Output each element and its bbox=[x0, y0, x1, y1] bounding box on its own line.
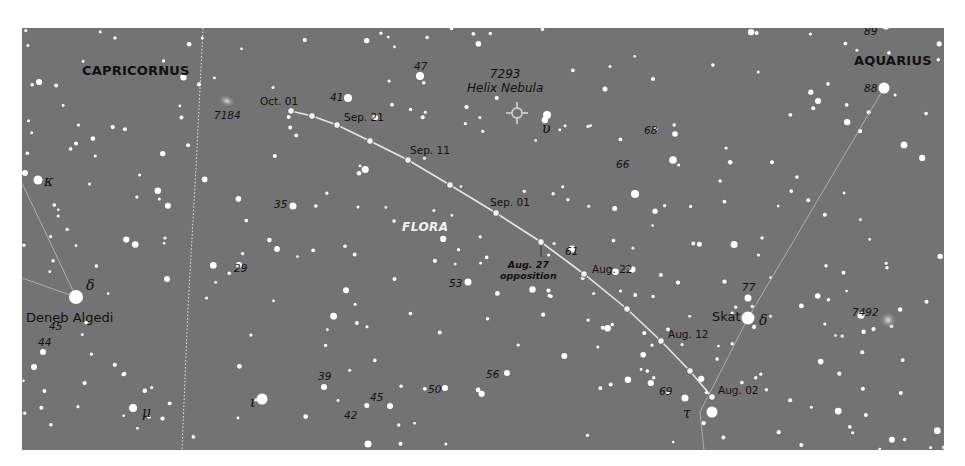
field-star bbox=[457, 248, 460, 251]
field-star bbox=[36, 79, 42, 85]
field-star bbox=[74, 141, 78, 145]
field-star bbox=[160, 417, 164, 421]
field-star bbox=[113, 36, 116, 39]
field-star bbox=[871, 327, 875, 331]
star-number-label: 88 bbox=[864, 83, 877, 94]
field-star bbox=[799, 304, 804, 309]
field-star bbox=[691, 242, 695, 246]
field-star bbox=[54, 83, 58, 87]
star-number-label: 39 bbox=[318, 371, 331, 382]
field-star bbox=[811, 106, 815, 110]
field-star bbox=[138, 174, 141, 177]
ngc-number-label: 7184 bbox=[214, 110, 241, 121]
greek-letter-label: ι bbox=[250, 395, 256, 409]
field-star bbox=[294, 134, 298, 138]
constellation-name-label: AQUARIUS bbox=[854, 54, 932, 67]
field-star bbox=[566, 198, 569, 201]
field-star bbox=[632, 247, 635, 250]
field-star bbox=[75, 244, 78, 247]
field-star bbox=[731, 241, 738, 248]
field-star bbox=[51, 259, 54, 262]
field-star bbox=[901, 142, 908, 149]
field-star bbox=[425, 36, 429, 40]
field-star bbox=[267, 238, 272, 243]
field-star bbox=[186, 143, 190, 147]
field-star bbox=[180, 116, 184, 120]
field-star bbox=[603, 86, 608, 91]
field-star bbox=[815, 293, 821, 299]
field-star bbox=[529, 286, 535, 292]
greek-letter-label: κ bbox=[44, 174, 53, 188]
field-star bbox=[168, 401, 172, 405]
field-star bbox=[609, 383, 613, 387]
star-number-label: 53 bbox=[449, 278, 462, 289]
bright-star bbox=[442, 385, 448, 391]
field-star bbox=[596, 345, 599, 348]
field-star bbox=[113, 363, 117, 367]
field-star bbox=[934, 427, 941, 434]
field-star bbox=[919, 155, 925, 161]
field-star bbox=[731, 342, 734, 345]
field-star bbox=[99, 31, 102, 34]
field-star bbox=[789, 113, 793, 117]
field-star bbox=[249, 334, 252, 337]
field-star bbox=[460, 185, 463, 188]
field-star bbox=[495, 96, 499, 100]
field-star bbox=[237, 364, 242, 369]
bright-star bbox=[321, 384, 327, 390]
ngc-number-label: 7492 bbox=[852, 307, 879, 318]
field-star bbox=[604, 325, 611, 332]
field-star bbox=[702, 421, 706, 425]
field-star bbox=[53, 203, 57, 207]
field-star bbox=[619, 138, 623, 142]
field-star bbox=[653, 209, 658, 214]
field-star bbox=[601, 326, 605, 330]
field-star bbox=[868, 238, 871, 241]
field-star bbox=[486, 317, 489, 320]
field-star bbox=[155, 188, 161, 194]
field-star bbox=[311, 248, 315, 252]
star-number-label: 56 bbox=[486, 369, 499, 380]
field-star bbox=[611, 323, 614, 326]
field-star bbox=[464, 122, 467, 125]
field-star bbox=[564, 124, 567, 127]
field-star bbox=[752, 325, 756, 329]
field-star bbox=[187, 42, 192, 47]
field-star bbox=[326, 328, 329, 331]
bright-star bbox=[669, 156, 677, 164]
field-star bbox=[132, 241, 139, 248]
field-star bbox=[885, 266, 888, 269]
asteroid-name-label: FLORA bbox=[402, 221, 449, 233]
field-star bbox=[810, 406, 813, 409]
greek-letter-label: δ bbox=[759, 313, 767, 327]
greek-letter-label: τ bbox=[683, 406, 691, 420]
field-star bbox=[464, 105, 468, 109]
field-star bbox=[366, 325, 369, 328]
field-star bbox=[143, 388, 148, 393]
field-star bbox=[164, 276, 170, 282]
field-star bbox=[337, 399, 340, 402]
field-star bbox=[472, 32, 476, 36]
field-star bbox=[541, 28, 544, 31]
field-star bbox=[364, 38, 369, 43]
field-star bbox=[399, 385, 403, 389]
field-star bbox=[49, 235, 52, 238]
helix-nebula-label: 7293Helix Nebula bbox=[467, 68, 543, 96]
field-star bbox=[823, 322, 826, 325]
field-star bbox=[609, 65, 612, 68]
field-star bbox=[202, 177, 208, 183]
field-star bbox=[296, 255, 299, 258]
field-star bbox=[213, 77, 216, 80]
field-star bbox=[843, 192, 846, 195]
field-star bbox=[373, 359, 377, 363]
star-number-label: 68 bbox=[644, 125, 657, 136]
nebula-name: Helix Nebula bbox=[467, 82, 543, 96]
field-star bbox=[757, 70, 760, 73]
field-star bbox=[827, 298, 831, 302]
field-star bbox=[165, 203, 171, 209]
field-star bbox=[757, 253, 760, 256]
field-star bbox=[314, 204, 318, 208]
field-star bbox=[689, 205, 692, 208]
field-star bbox=[495, 291, 500, 296]
field-star bbox=[62, 104, 65, 107]
